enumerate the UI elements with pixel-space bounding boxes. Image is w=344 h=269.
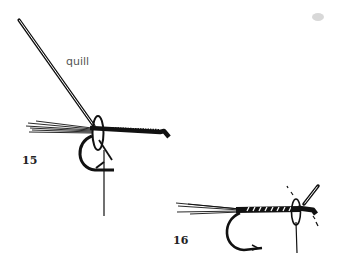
quill-label: quill <box>66 55 89 68</box>
hook <box>80 136 114 170</box>
figure-16-drawing <box>176 186 318 253</box>
figure-15-drawing <box>19 20 169 216</box>
fly-body <box>90 128 169 137</box>
hanging-thread <box>296 222 297 253</box>
fly-tying-illustration <box>0 0 344 269</box>
figure-16-number: 16 <box>173 234 188 247</box>
hook <box>227 213 262 250</box>
figure-15-number: 15 <box>22 154 37 167</box>
smudge-mark <box>312 13 324 21</box>
